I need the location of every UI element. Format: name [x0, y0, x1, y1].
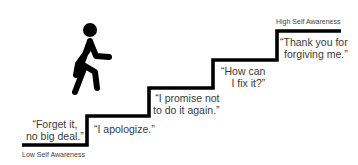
step-3-label: “I promise not to do it again.”	[153, 92, 220, 116]
step-5-label: “Thank you for forgiving me.”	[280, 36, 348, 60]
step-1-label: “Forget it, no big deal.”	[26, 118, 84, 142]
step-2-line-1: “I apologize.”	[94, 123, 155, 135]
step-3-line-2: to do it again.”	[153, 104, 220, 116]
step-2-label: “I apologize.”	[94, 123, 155, 135]
step-1-line-1: “Forget it,	[26, 118, 84, 130]
step-1-line-2: no big deal.”	[26, 130, 84, 142]
step-3-line-1: “I promise not	[153, 92, 220, 104]
step-5-line-1: “Thank you for	[280, 36, 348, 48]
step-4-line-2: I fix it?”	[221, 77, 265, 89]
walking-person-icon	[62, 20, 114, 100]
low-self-awareness-label: Low Self Awareness	[22, 151, 85, 158]
high-self-awareness-label: High Self Awareness	[276, 18, 340, 25]
step-5-line-2: forgiving me.”	[280, 48, 348, 60]
step-4-line-1: “How can	[221, 65, 265, 77]
step-4-label: “How can I fix it?”	[221, 65, 265, 89]
